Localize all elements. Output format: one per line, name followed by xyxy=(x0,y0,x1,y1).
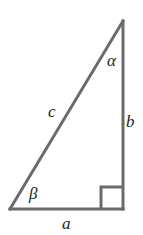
angle-label-alpha: α xyxy=(107,52,116,69)
side-label-b: b xyxy=(126,113,135,130)
side-label-c: c xyxy=(48,103,56,120)
right-angle-marker-icon xyxy=(101,187,122,208)
right-triangle-figure: α β c b a xyxy=(0,0,143,235)
triangle-drawing xyxy=(0,0,143,235)
side-label-a: a xyxy=(62,215,71,232)
angle-label-beta: β xyxy=(29,185,37,202)
hypotenuse-line-c xyxy=(10,21,123,209)
